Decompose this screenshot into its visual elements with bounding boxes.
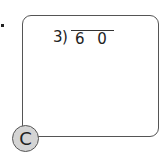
- bullet-marker: [1, 24, 4, 27]
- option-label-badge[interactable]: C: [12, 125, 39, 152]
- dividend: 6 0: [71, 30, 114, 48]
- option-label: C: [19, 128, 32, 149]
- division-bracket-icon: ): [62, 28, 68, 46]
